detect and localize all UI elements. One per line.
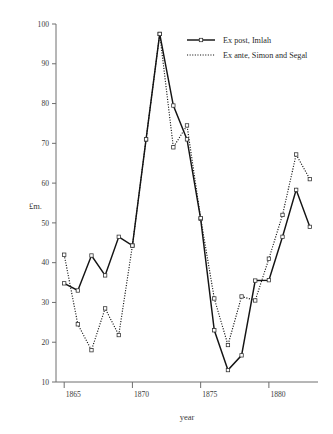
data-point-marker [117, 235, 120, 238]
x-tick-label: 1880 [270, 390, 285, 399]
data-point-marker [76, 323, 79, 326]
data-point-marker [213, 297, 216, 300]
data-point-marker [226, 368, 229, 371]
data-point-marker [76, 289, 79, 292]
data-point-marker [226, 343, 229, 346]
data-point-marker [267, 278, 270, 281]
data-point-marker [240, 295, 243, 298]
y-tick-label: 50 [41, 219, 49, 228]
data-point-marker [103, 307, 106, 310]
data-point-marker [213, 329, 216, 332]
y-tick-label: 80 [41, 99, 49, 108]
data-point-marker [172, 146, 175, 149]
data-point-marker [267, 257, 270, 260]
data-point-marker [185, 138, 188, 141]
y-tick-label: 20 [41, 338, 49, 347]
data-point-marker [254, 279, 257, 282]
data-point-marker [254, 299, 257, 302]
data-point-marker [172, 104, 175, 107]
y-tick-label: 100 [38, 20, 50, 29]
x-tick-label: 1870 [134, 390, 149, 399]
y-tick-label: 40 [41, 258, 49, 267]
y-tick-label: 30 [41, 298, 49, 307]
data-point-marker [117, 333, 120, 336]
y-tick-label: 70 [41, 139, 49, 148]
x-axis-title: year [180, 412, 195, 422]
data-point-marker [90, 254, 93, 257]
y-tick-label: 90 [41, 59, 49, 68]
data-point-marker [144, 138, 147, 141]
data-point-marker [240, 354, 243, 357]
data-point-marker [158, 32, 161, 35]
data-point-marker [103, 274, 106, 277]
data-point-marker [308, 177, 311, 180]
y-tick-label: 10 [41, 378, 49, 387]
data-point-marker [281, 213, 284, 216]
data-point-marker [308, 225, 311, 228]
data-point-marker [294, 153, 297, 156]
y-axis-title: £m. [29, 201, 42, 211]
data-point-marker [62, 253, 65, 256]
data-point-marker [62, 282, 65, 285]
y-tick-label: 60 [41, 179, 49, 188]
legend-label-1: Ex ante, Simon and Segal [223, 51, 308, 60]
data-point-marker [294, 188, 297, 191]
x-tick-label: 1865 [66, 390, 81, 399]
chart-figure: 102030405060708090100 1865187018751880 £… [0, 0, 333, 434]
data-point-marker [90, 348, 93, 351]
data-point-marker [281, 235, 284, 238]
data-point-marker [185, 124, 188, 127]
data-point-marker [199, 216, 202, 219]
x-tick-label: 1875 [202, 390, 217, 399]
data-point-marker [131, 244, 134, 247]
legend-label-0: Ex post, Imlah [223, 36, 271, 45]
legend-marker [199, 38, 202, 41]
